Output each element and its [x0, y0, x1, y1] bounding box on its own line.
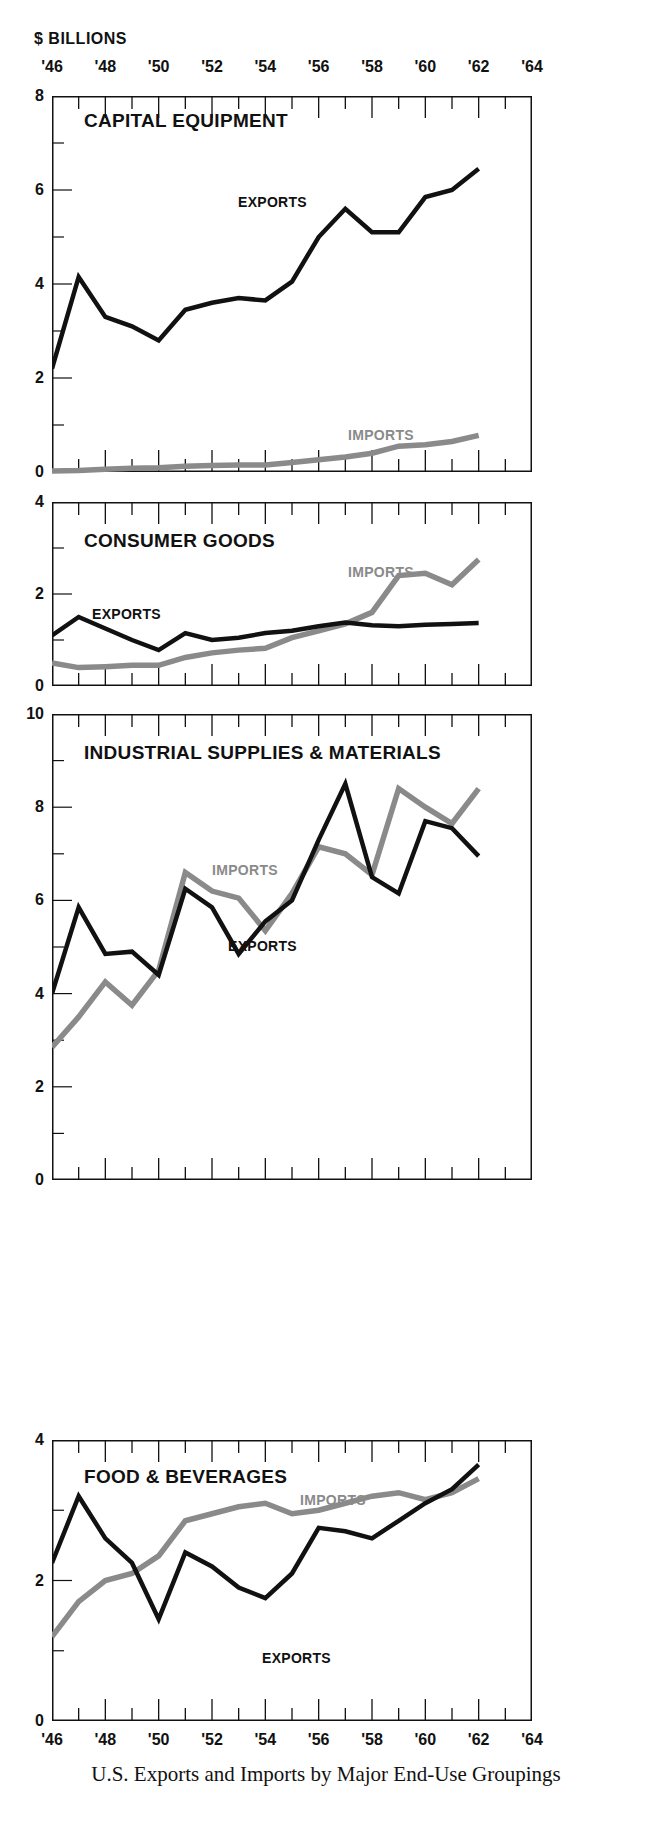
x-tick-64: '64: [521, 1731, 543, 1749]
y-tick-label: 8: [8, 87, 44, 105]
x-tick-62: '62: [468, 58, 490, 76]
x-tick-60: '60: [415, 1731, 437, 1749]
x-tick-54: '54: [255, 1731, 277, 1749]
series-line-exports: [52, 784, 479, 994]
series-line-imports: [52, 1479, 479, 1637]
y-tick-label: 4: [8, 985, 44, 1003]
panel-title-consumer-goods: CONSUMER GOODS: [84, 530, 275, 552]
y-tick-label: 2: [8, 585, 44, 603]
units-label: $ BILLIONS: [34, 30, 127, 48]
chart-panel-capital-equipment: [52, 94, 532, 474]
x-tick-50: '50: [148, 58, 170, 76]
y-tick-label: 2: [8, 369, 44, 387]
chart-svg-consumer-goods: [52, 500, 532, 688]
x-tick-64: '64: [521, 58, 543, 76]
series-label-exports-capital-equipment: EXPORTS: [238, 194, 307, 210]
x-axis-labels-top: '46'48'50'52'54'56'58'60'62'64: [0, 58, 652, 78]
series-label-imports-industrial-supplies: IMPORTS: [212, 862, 278, 878]
y-tick-label: 4: [8, 275, 44, 293]
x-tick-52: '52: [201, 1731, 223, 1749]
series-line-imports: [52, 789, 479, 1048]
series-label-exports-industrial-supplies: EXPORTS: [228, 938, 297, 954]
chart-svg-capital-equipment: [52, 94, 532, 474]
y-tick-label: 8: [8, 798, 44, 816]
series-label-imports-food-beverages: IMPORTS: [300, 1492, 366, 1508]
figure-caption: U.S. Exports and Imports by Major End-Us…: [0, 1762, 652, 1787]
x-tick-60: '60: [415, 58, 437, 76]
y-tick-label: 0: [8, 463, 44, 481]
y-tick-label: 0: [8, 677, 44, 695]
x-tick-58: '58: [361, 58, 383, 76]
panel-title-food-beverages: FOOD & BEVERAGES: [84, 1466, 287, 1488]
y-tick-label: 4: [8, 493, 44, 511]
x-tick-46: '46: [41, 58, 63, 76]
chart-page: $ BILLIONS '46'48'50'52'54'56'58'60'62'6…: [0, 0, 652, 1829]
series-label-imports-consumer-goods: IMPORTS: [348, 564, 414, 580]
panel-title-industrial-supplies: INDUSTRIAL SUPPLIES & MATERIALS: [84, 742, 441, 764]
series-label-imports-capital-equipment: IMPORTS: [348, 427, 414, 443]
y-tick-label: 0: [8, 1171, 44, 1189]
x-tick-50: '50: [148, 1731, 170, 1749]
x-tick-62: '62: [468, 1731, 490, 1749]
series-label-exports-food-beverages: EXPORTS: [262, 1650, 331, 1666]
x-tick-56: '56: [308, 1731, 330, 1749]
x-tick-48: '48: [95, 1731, 117, 1749]
y-tick-label: 2: [8, 1572, 44, 1590]
x-tick-48: '48: [95, 58, 117, 76]
y-tick-label: 2: [8, 1078, 44, 1096]
x-tick-58: '58: [361, 1731, 383, 1749]
y-tick-label: 0: [8, 1712, 44, 1730]
x-tick-56: '56: [308, 58, 330, 76]
x-axis-labels-bottom: '46'48'50'52'54'56'58'60'62'64: [0, 1731, 652, 1751]
series-label-exports-consumer-goods: EXPORTS: [92, 606, 161, 622]
y-tick-label: 10: [8, 705, 44, 723]
y-tick-label: 6: [8, 181, 44, 199]
y-tick-label: 6: [8, 891, 44, 909]
x-tick-52: '52: [201, 58, 223, 76]
panel-title-capital-equipment: CAPITAL EQUIPMENT: [84, 110, 288, 132]
y-tick-label: 4: [8, 1431, 44, 1449]
x-tick-54: '54: [255, 58, 277, 76]
chart-panel-consumer-goods: [52, 500, 532, 688]
x-tick-46: '46: [41, 1731, 63, 1749]
